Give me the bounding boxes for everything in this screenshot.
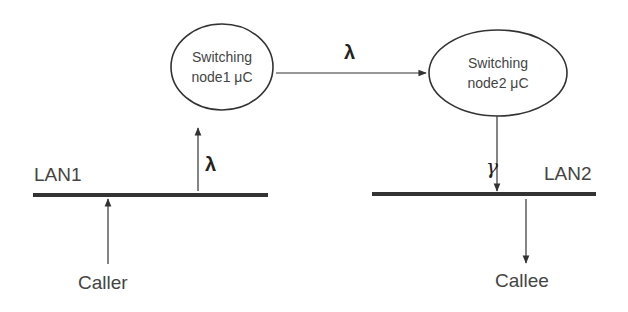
node2-label-line2: node2 μC (448, 73, 548, 93)
node1-label-line1: Switching (172, 47, 272, 67)
gamma-label-node2-lan2: γ (486, 155, 498, 179)
lambda-label-lan1-node1: λ (205, 153, 216, 176)
node1-label: Switching node1 μC (172, 47, 272, 87)
node2-label-line1: Switching (448, 53, 548, 73)
diagram-canvas (0, 0, 628, 312)
node1-label-line2: node1 μC (172, 67, 272, 87)
node2-label: Switching node2 μC (448, 53, 548, 93)
callee-label: Callee (495, 270, 549, 292)
caller-label: Caller (78, 272, 128, 294)
lambda-label-node1-node2: λ (344, 41, 355, 64)
lan2-label: LAN2 (544, 163, 592, 185)
lan1-label: LAN1 (34, 164, 82, 186)
